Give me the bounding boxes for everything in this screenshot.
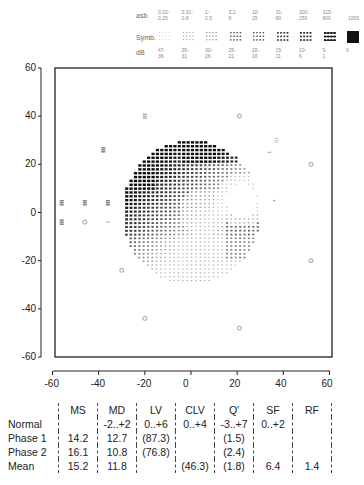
test-point-marker [309,162,313,166]
table-row-mean: Mean 15.2 11.8 (46.3) (1.8) 6.4 1.4 [8,459,332,473]
test-point-marker [60,201,64,205]
header-md: MD [98,403,137,417]
x-tick-label: -40 [91,378,105,389]
x-tick-label: 40 [275,378,286,389]
x-tick-label: -20 [137,378,151,389]
y-tick-label: 60 [25,62,36,73]
table-header-row: MS MD LV CLV Q' SF RF [8,403,332,417]
cell-sf: 0..+2 [254,417,293,431]
cell-clv [176,445,215,459]
cell-lv: 0..+6 [137,417,176,431]
cell-ms: 14.2 [59,431,98,445]
peripheral-points [60,114,313,330]
cell-clv: (46.3) [176,459,215,473]
x-tick-label: 0 [183,378,189,389]
y-tick-label: -60 [22,351,36,362]
test-point-marker [237,114,241,118]
cell-sf [254,431,293,445]
cell-ms: 15.2 [59,459,98,473]
cell-lv: (76.8) [137,445,176,459]
row-label: Normal [8,417,59,431]
y-tick-label: 0 [30,207,36,218]
y-tick-label: -20 [22,255,36,266]
header-rf: RF [293,403,332,417]
test-point-marker [120,268,124,272]
row-label: Phase 1 [8,431,59,445]
test-point-marker [101,148,105,152]
cell-lv: (87.3) [137,431,176,445]
test-point-marker [237,326,241,330]
cell-q: (2.4) [215,445,254,459]
header-blank [8,403,59,417]
header-q: Q' [215,403,254,417]
header-sf: SF [254,403,293,417]
test-point-marker [309,259,313,263]
y-tick-label: 40 [25,110,36,121]
test-point-marker [83,220,87,224]
cell-md: 10.8 [98,445,137,459]
table-row-phase1: Phase 1 14.2 12.7 (87.3) (1.5) [8,431,332,445]
cell-sf [254,445,293,459]
cell-ms [59,417,98,431]
table-row-phase2: Phase 2 16.1 10.8 (76.8) (2.4) [8,445,332,459]
test-point-marker [274,138,278,142]
grayscale-field [125,141,259,281]
cell-q: (1.5) [215,431,254,445]
test-point-marker [83,201,87,205]
test-point-marker [143,114,147,118]
header-ms: MS [59,403,98,417]
cell-ms: 16.1 [59,445,98,459]
test-point-marker [143,316,147,320]
plot-frame [55,68,332,357]
test-point-marker [60,220,64,224]
header-lv: LV [137,403,176,417]
cell-rf: 1.4 [293,459,332,473]
cell-rf [293,445,332,459]
header-clv: CLV [176,403,215,417]
cell-rf [293,417,332,431]
test-point-marker [106,201,110,205]
cell-sf: 6.4 [254,459,293,473]
row-label: Mean [8,459,59,473]
visual-field-plot [0,0,353,400]
cell-md: 12.7 [98,431,137,445]
axis-ticks [38,68,330,375]
cell-md: 11.8 [98,459,137,473]
y-tick-label: 20 [25,158,36,169]
row-label: Phase 2 [8,445,59,459]
global-indices-table: MS MD LV CLV Q' SF RF Normal -2..+2 0..+… [8,403,332,473]
y-tick-label: -40 [22,303,36,314]
x-tick-label: 60 [322,378,333,389]
cell-rf [293,431,332,445]
table-row-normal: Normal -2..+2 0..+6 0..+4 -3..+7 0..+2 [8,417,332,431]
x-tick-label: -60 [45,378,59,389]
test-point-marker [274,200,275,201]
cell-q: (1.8) [215,459,254,473]
x-tick-label: 20 [229,378,240,389]
cell-q: -3..+7 [215,417,254,431]
cell-md: -2..+2 [98,417,137,431]
cell-clv [176,431,215,445]
cell-lv [137,459,176,473]
cell-clv: 0..+4 [176,417,215,431]
